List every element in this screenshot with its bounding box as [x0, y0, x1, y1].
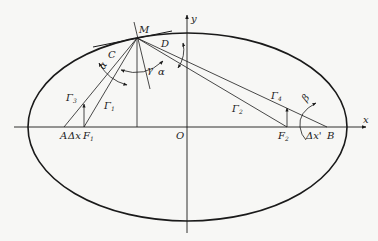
label-gamma4: Γ4 — [270, 90, 282, 102]
label-D: D — [160, 38, 169, 49]
label-gamma3: Γ3 — [65, 92, 77, 104]
label-dx: Δx — [67, 130, 81, 141]
label-gamma: γ — [147, 64, 153, 75]
label-A: A — [59, 130, 67, 141]
label-gamma1: Γ1 — [103, 100, 115, 112]
label-gamma2: Γ2 — [231, 103, 243, 115]
ray-gamma2 — [137, 38, 287, 127]
label-alpha-right: α — [158, 66, 165, 77]
label-alpha-left: α — [96, 60, 109, 72]
label-F1: F1 — [82, 130, 94, 142]
label-B: B — [326, 130, 334, 141]
ellipse-diagram: M C D A B O x y F1 F2 Δx Δx' Γ3 Γ1 Γ2 Γ4… — [0, 0, 378, 241]
label-C: C — [108, 49, 116, 60]
gamma-arc — [121, 61, 163, 73]
label-O: O — [176, 130, 184, 141]
label-M: M — [138, 24, 150, 35]
label-dx-prime: Δx' — [305, 130, 322, 141]
label-x: x — [363, 114, 369, 125]
ray-gamma3 — [64, 38, 137, 127]
label-beta: β — [299, 92, 312, 104]
label-y: y — [190, 13, 197, 24]
label-F2: F2 — [277, 130, 289, 142]
